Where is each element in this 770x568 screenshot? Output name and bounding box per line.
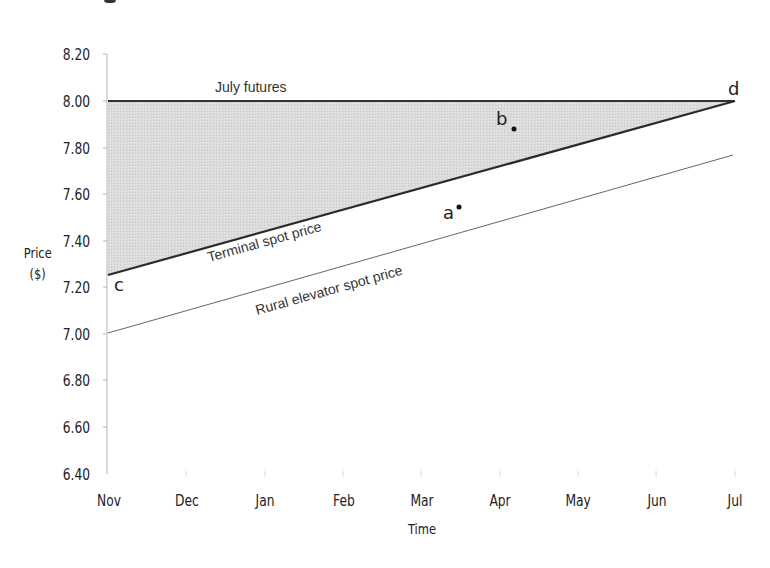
y-tick-label: 7.40 [63, 233, 90, 250]
x-tick-label: Jun [646, 492, 666, 509]
x-tick-label: Jan [255, 492, 275, 509]
x-tick-label: Nov [97, 492, 121, 509]
x-axis-title: Time [407, 521, 436, 537]
y-tick-label: 6.40 [63, 466, 90, 483]
x-tick-label: Dec [175, 492, 199, 509]
y-tick-label: 7.20 [63, 279, 90, 296]
price-chart: 8.20 8.00 7.80 7.60 7.40 7.20 7.00 6.80 … [0, 0, 770, 568]
y-tick-label: 7.00 [63, 326, 90, 343]
y-tick-label: 6.60 [63, 419, 90, 436]
point-a-dot [457, 205, 462, 210]
point-a-label: a [443, 202, 454, 223]
y-tick-label: 7.80 [63, 140, 90, 157]
y-axis-title-line2: ($) [30, 266, 46, 282]
point-b-label: b [496, 108, 507, 129]
point-b-dot [512, 127, 517, 132]
cropped-title-fragment [104, 0, 116, 3]
point-c-label: c [114, 274, 124, 295]
point-a: a [443, 202, 462, 223]
y-tick-label: 8.00 [63, 93, 90, 110]
x-tick-label: Jul [727, 492, 743, 509]
y-axis: 8.20 8.00 7.80 7.60 7.40 7.20 7.00 6.80 … [24, 46, 107, 483]
x-tick-label: Mar [410, 492, 434, 509]
july-futures-label: July futures [215, 79, 287, 95]
x-axis [186, 470, 735, 478]
y-tick-label: 6.80 [63, 372, 90, 389]
x-tick-label: Apr [489, 492, 511, 509]
x-tick-label: May [565, 492, 590, 509]
point-d-label: d [728, 78, 739, 99]
y-tick-label: 7.60 [63, 186, 90, 203]
x-tick-label: Feb [333, 492, 355, 509]
y-axis-title-line1: Price [24, 245, 52, 261]
y-tick-label: 8.20 [63, 46, 90, 63]
